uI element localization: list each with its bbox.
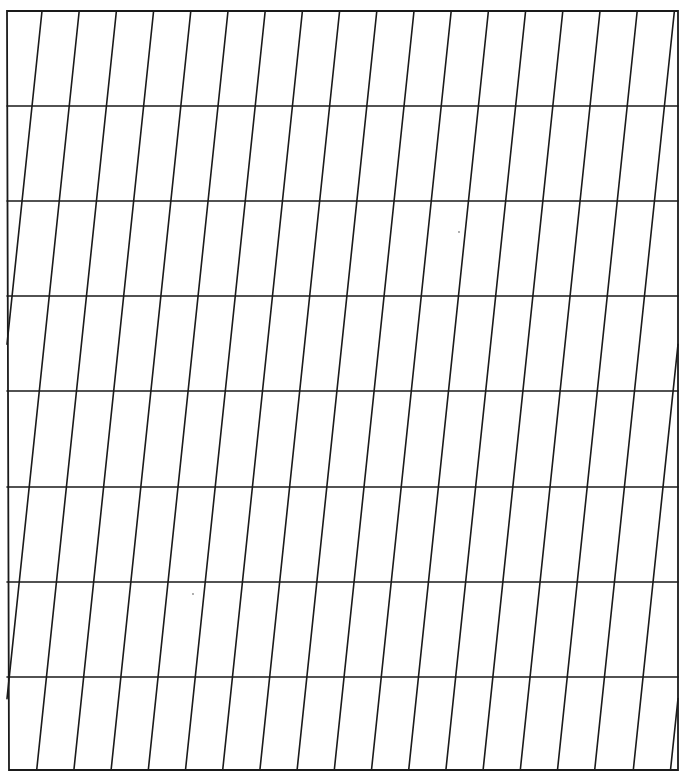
horizontal-lines: [7, 106, 678, 677]
slanted-line: [633, 344, 678, 770]
grid-diagram: [0, 0, 685, 781]
speck-dot: [458, 231, 460, 233]
slanted-line: [671, 699, 679, 770]
slanted-line: [7, 11, 42, 344]
speck-dot: [192, 593, 194, 595]
sheared-grid-drawing: [0, 0, 685, 781]
slanted-line: [7, 11, 79, 699]
specks: [192, 231, 460, 595]
